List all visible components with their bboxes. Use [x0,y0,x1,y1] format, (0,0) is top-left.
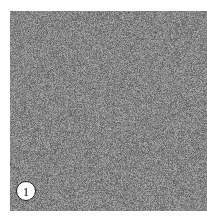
figure-index-label: 1 [23,184,30,197]
figure-index-badge: 1 [16,181,36,201]
noise-texture-image [10,11,207,211]
figure-root: 1 [0,0,207,222]
texture-panel [10,11,207,211]
